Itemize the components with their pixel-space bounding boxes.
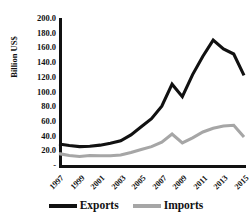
y-tick-label: - — [14, 161, 56, 170]
y-tick-label: 20.0 — [14, 146, 56, 155]
y-tick-label: 40.0 — [14, 131, 56, 140]
x-tick-label: 2011 — [192, 174, 210, 192]
x-tick-label: 1999 — [68, 173, 86, 191]
y-tick-label: 160.0 — [14, 43, 56, 52]
x-tick-label: 2013 — [212, 173, 230, 191]
x-tick-label: 2009 — [171, 173, 189, 191]
x-tick-label: 2005 — [130, 173, 148, 191]
series-line-imports — [59, 125, 244, 156]
x-tick-label: 2015 — [233, 173, 251, 191]
y-tick-label: 140.0 — [14, 58, 56, 67]
x-axis-tick-labels: 1997199920012003200520072009201120132015 — [59, 168, 246, 194]
legend-swatch-exports — [49, 204, 77, 207]
x-tick-label: 2003 — [109, 173, 127, 191]
legend-item-exports[interactable]: Exports — [49, 200, 119, 212]
legend-label: Exports — [80, 200, 119, 212]
chart-legend: ExportsImports — [0, 196, 252, 216]
y-tick-label: 200.0 — [14, 14, 56, 23]
plot-area — [59, 18, 244, 165]
series-canvas — [59, 18, 244, 165]
x-tick-label: 2007 — [150, 173, 168, 191]
y-tick-label: 100.0 — [14, 87, 56, 96]
series-line-exports — [59, 40, 244, 147]
y-tick-label: 120.0 — [14, 73, 56, 82]
y-axis-tick-labels: 200.0180.0160.0140.0120.0100.080.060.040… — [14, 13, 56, 169]
legend-label: Imports — [164, 200, 204, 212]
x-tick-label: 1997 — [48, 173, 66, 191]
legend-item-imports[interactable]: Imports — [133, 200, 204, 212]
x-tick-label: 2001 — [89, 173, 107, 191]
line-chart: Billion US$ 200.0180.0160.0140.0120.0100… — [0, 0, 252, 218]
y-tick-label: 180.0 — [14, 28, 56, 37]
y-tick-label: 80.0 — [14, 102, 56, 111]
y-tick-label: 60.0 — [14, 117, 56, 126]
legend-swatch-imports — [133, 204, 161, 207]
